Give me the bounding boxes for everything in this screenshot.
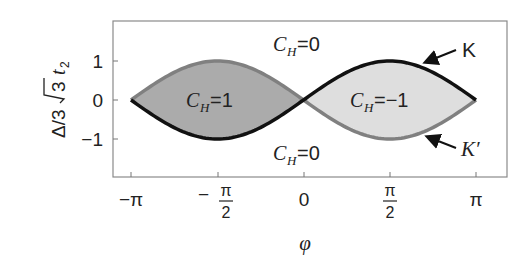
svg-text:2: 2 <box>222 204 231 221</box>
svg-text:−: − <box>198 184 209 205</box>
annotation-k-prime: K′ <box>460 137 480 161</box>
svg-text:C: C <box>186 89 200 111</box>
svg-text:2: 2 <box>386 204 395 221</box>
y-ticks <box>113 61 118 139</box>
svg-text:C: C <box>350 89 364 111</box>
svg-text:2: 2 <box>58 61 72 68</box>
y-tick-minus-1: −1 <box>81 129 103 150</box>
svg-text:=0: =0 <box>297 33 320 55</box>
svg-text:C: C <box>273 142 287 164</box>
x-tick-minus-pi: −π <box>119 189 143 210</box>
x-tick-pi-half: π 2 <box>383 182 397 221</box>
svg-text:H: H <box>363 100 374 115</box>
x-tick-minus-pi-half: − π 2 <box>198 182 233 221</box>
y-tick-0: 0 <box>92 90 103 111</box>
svg-text:π: π <box>220 182 231 199</box>
x-tick-zero: 0 <box>299 189 310 210</box>
svg-text:=1: =1 <box>210 89 233 111</box>
svg-text:H: H <box>286 153 297 168</box>
chart-canvas: 1 0 −1 −π − π 2 0 π 2 π φ Δ/3 3 t 2 C H … <box>0 0 532 270</box>
label-ch-bottom: C H =0 <box>273 142 320 168</box>
y-axis-label: Δ/3 3 t 2 <box>44 61 72 138</box>
label-ch-top: C H =0 <box>273 33 320 59</box>
svg-text:Δ/3: Δ/3 <box>48 109 69 138</box>
svg-text:3: 3 <box>48 81 69 92</box>
svg-text:π: π <box>384 182 395 199</box>
svg-text:=0: =0 <box>297 142 320 164</box>
x-axis-label: φ <box>299 231 311 255</box>
x-ticks <box>131 172 476 177</box>
svg-text:H: H <box>199 100 210 115</box>
arrow-k <box>426 50 456 62</box>
svg-text:=−1: =−1 <box>374 89 408 111</box>
x-tick-pi: π <box>469 189 482 210</box>
annotation-k: K <box>462 38 476 61</box>
svg-text:t: t <box>47 69 69 75</box>
svg-text:H: H <box>286 44 297 59</box>
svg-text:C: C <box>273 33 287 55</box>
arrow-k-prime <box>428 137 456 148</box>
y-tick-1: 1 <box>92 51 103 72</box>
